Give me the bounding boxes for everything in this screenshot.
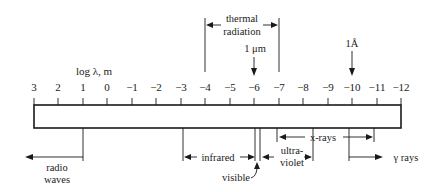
gamma-label: γ rays bbox=[393, 152, 419, 163]
micron-label: 1 μm bbox=[244, 43, 266, 54]
xrays-band: x-rays bbox=[277, 128, 374, 143]
spectrum-bar bbox=[34, 105, 401, 128]
radio-label-2: waves bbox=[44, 174, 70, 185]
tick-label: 1 bbox=[80, 81, 86, 93]
tick-label: 3 bbox=[31, 81, 37, 93]
infrared-label: infrared bbox=[201, 152, 235, 163]
tick-marks bbox=[34, 98, 401, 105]
thermal-radiation-band: thermal radiation bbox=[205, 13, 279, 72]
curved-arrow-icon bbox=[254, 162, 260, 169]
thermal-label-1: thermal bbox=[226, 13, 258, 24]
visible-label-group: visible bbox=[222, 162, 260, 183]
tick-label: −8 bbox=[297, 81, 309, 93]
tick-label: −9 bbox=[322, 81, 334, 93]
uv-label-1: ultra- bbox=[281, 145, 304, 156]
axis-title: log λ, m bbox=[76, 65, 113, 77]
xrays-label: x-rays bbox=[310, 132, 336, 143]
radio-label-1: radio bbox=[46, 162, 68, 173]
tick-label: −12 bbox=[392, 81, 409, 93]
arrow-down-icon bbox=[349, 68, 355, 76]
tick-label: −5 bbox=[224, 81, 236, 93]
tick-label: 0 bbox=[104, 81, 110, 93]
tick-label: −6 bbox=[248, 81, 260, 93]
tick-label: −10 bbox=[343, 81, 361, 93]
tick-label: −4 bbox=[199, 81, 211, 93]
ultraviolet-band: ultra- violet bbox=[262, 128, 313, 168]
tick-label: −2 bbox=[150, 81, 162, 93]
tick-label: −1 bbox=[126, 81, 138, 93]
uv-label-2: violet bbox=[280, 157, 304, 168]
infrared-band: infrared bbox=[183, 128, 255, 163]
micron-marker: 1 μm bbox=[244, 43, 266, 76]
tick-label: −3 bbox=[175, 81, 187, 93]
em-spectrum-diagram: log λ, m 3 2 1 0 −1 −2 −3 −4 −5 −6 −7 −8… bbox=[0, 0, 435, 192]
tick-label: 2 bbox=[55, 81, 61, 93]
visible-label: visible bbox=[222, 172, 250, 183]
gamma-rays-band: γ rays bbox=[349, 128, 418, 163]
tick-label: −11 bbox=[369, 81, 386, 93]
angstrom-marker: 1Å bbox=[346, 38, 359, 76]
thermal-label-2: radiation bbox=[223, 26, 261, 37]
angstrom-label: 1Å bbox=[346, 38, 359, 49]
tick-label: −7 bbox=[273, 81, 285, 93]
arrow-down-icon bbox=[251, 68, 257, 76]
radio-waves-band: radio waves bbox=[25, 128, 83, 185]
tick-labels: 3 2 1 0 −1 −2 −3 −4 −5 −6 −7 −8 −9 −10 −… bbox=[31, 81, 409, 93]
